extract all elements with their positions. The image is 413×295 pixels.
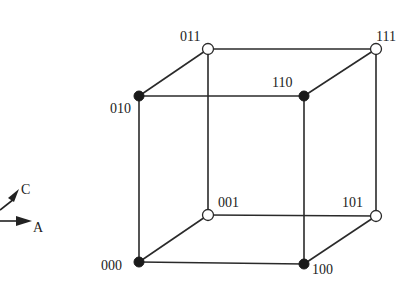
a-axis-arrowhead-icon	[16, 216, 32, 226]
axes-legend: C A	[0, 182, 44, 235]
c-axis-arrowhead-icon	[8, 189, 19, 202]
vertex-label-100: 100	[312, 262, 333, 277]
vertex-100-filled-dot-icon	[299, 259, 309, 269]
vertex-010-filled-dot-icon	[134, 91, 144, 101]
vertex-001-open-circle-icon	[203, 210, 214, 221]
edge-000-001	[139, 215, 208, 262]
edge-110-111	[304, 49, 376, 96]
vertex-101-open-circle-icon	[371, 211, 382, 222]
vertex-label-110: 110	[272, 75, 292, 90]
vertex-label-010: 010	[110, 101, 131, 116]
vertex-110-filled-dot-icon	[299, 91, 309, 101]
vertex-111-open-circle-icon	[371, 44, 382, 55]
cube-edges	[139, 49, 376, 264]
vertex-000-filled-dot-icon	[134, 257, 144, 267]
vertex-label-111: 111	[376, 29, 396, 44]
vertex-011-open-circle-icon	[203, 44, 214, 55]
axis-label-c: C	[21, 182, 30, 197]
c-axis-arrow-icon	[0, 199, 14, 210]
edge-010-011	[139, 49, 208, 96]
cube-vertices	[134, 44, 382, 270]
edge-000-100	[139, 262, 304, 264]
vertex-label-000: 000	[101, 258, 122, 273]
vertex-label-101: 101	[342, 195, 363, 210]
vertex-label-011: 011	[180, 29, 200, 44]
edge-001-101	[208, 215, 376, 216]
axis-label-a: A	[33, 220, 44, 235]
boolean-cube-diagram: 000100010110001101011111 C A	[0, 0, 413, 295]
vertex-label-001: 001	[218, 195, 239, 210]
edge-100-101	[304, 216, 376, 264]
vertex-labels: 000100010110001101011111	[101, 29, 396, 277]
